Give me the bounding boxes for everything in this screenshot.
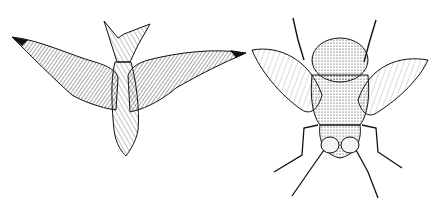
fly-illustration xyxy=(240,0,437,206)
fly-drawing xyxy=(240,0,437,206)
bird-drawing xyxy=(0,0,250,206)
bird-illustration xyxy=(0,0,250,206)
